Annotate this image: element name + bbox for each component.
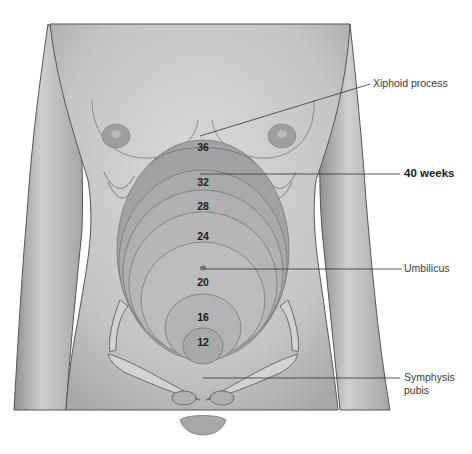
symphysis-label-line1: Symphysis — [404, 371, 455, 384]
week-label-36: 36 — [197, 141, 209, 153]
week-label-24: 24 — [197, 230, 209, 242]
xiphoid-process-label: Xiphoid process — [373, 77, 448, 90]
forty-weeks-label: 40 weeks — [404, 167, 455, 180]
week-label-32: 32 — [197, 176, 209, 188]
umbilicus-mark — [200, 266, 206, 271]
pregnant-torso-illustration — [0, 0, 472, 454]
week-label-20: 20 — [197, 276, 209, 288]
week-label-28: 28 — [197, 200, 209, 212]
week-label-16: 16 — [197, 311, 209, 323]
umbilicus-label: Umbilicus — [404, 262, 450, 275]
symphysis-pubis-label: Symphysis pubis — [404, 371, 455, 397]
symphysis-label-line2: pubis — [404, 384, 455, 397]
pubic-region — [180, 416, 226, 436]
week-label-12: 12 — [197, 336, 209, 348]
